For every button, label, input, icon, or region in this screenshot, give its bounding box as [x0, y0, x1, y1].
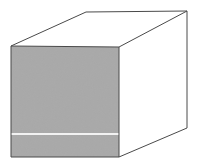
- figure-canvas: [0, 0, 197, 165]
- box-illustration: [0, 0, 197, 165]
